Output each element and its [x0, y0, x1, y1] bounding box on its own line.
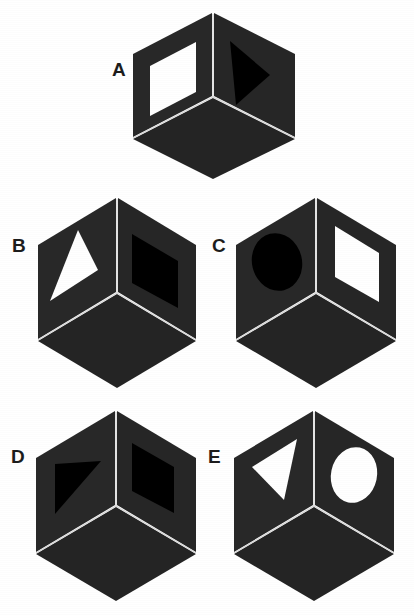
cube-c-drawing [236, 198, 396, 388]
cube-a-drawing [133, 13, 295, 179]
cube-d-drawing [36, 411, 196, 601]
cube-b-label: B [12, 236, 26, 255]
cube-c-label: C [212, 236, 226, 255]
cube-figure-b[interactable]: B [38, 198, 196, 388]
cube-e-drawing [234, 411, 394, 601]
cube-figure-c[interactable]: C [236, 198, 396, 388]
cube-a-label: A [112, 60, 126, 79]
cube-figure-d[interactable]: D [36, 411, 196, 601]
cube-figure-stage: A B [0, 0, 414, 615]
cube-figure-a[interactable]: A [133, 13, 295, 179]
cube-d-label: D [11, 447, 25, 466]
cube-e-label: E [208, 447, 221, 466]
figure-page: A B [0, 0, 414, 615]
cube-figure-e[interactable]: E [234, 411, 394, 601]
cube-b-drawing [38, 198, 196, 388]
